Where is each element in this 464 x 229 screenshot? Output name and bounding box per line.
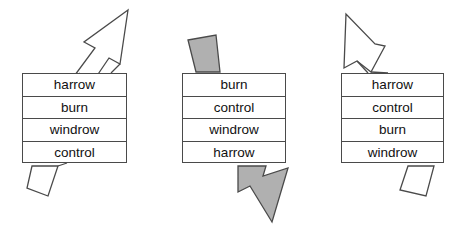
treatment-cell: burn (342, 119, 443, 142)
treatment-cell: burn (183, 74, 285, 97)
treatment-block-diagram: harrow burn windrow control burn control… (0, 0, 464, 229)
treatment-cell: harrow (342, 74, 443, 97)
block-2: burn control windrow harrow (182, 73, 286, 163)
treatment-cell: harrow (23, 74, 126, 97)
treatment-cell: control (23, 142, 126, 165)
treatment-cell: control (342, 97, 443, 120)
treatment-cell: windrow (342, 142, 443, 165)
connector-line (357, 61, 368, 73)
treatment-cell: windrow (183, 119, 285, 142)
treatment-cell: harrow (183, 142, 285, 165)
block-3: harrow control burn windrow (341, 73, 444, 163)
treatment-cell: burn (23, 97, 126, 120)
connector-line (111, 64, 120, 73)
treatment-cell: control (183, 97, 285, 120)
block-1: harrow burn windrow control (22, 73, 127, 163)
treatment-cell: windrow (23, 119, 126, 142)
